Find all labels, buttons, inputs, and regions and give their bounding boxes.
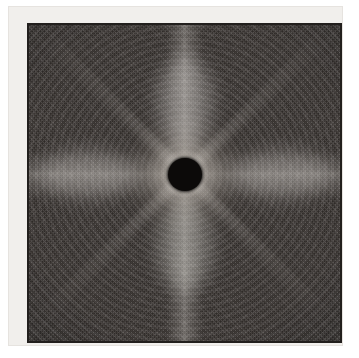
halo-lobe-right [235,148,330,200]
halo-lobe-top [157,56,213,146]
halo-lobe-bottom [157,202,213,292]
plate-border [27,23,342,343]
plate-frame [8,6,343,346]
halo-lobe-left [40,148,135,200]
image-description: Grayscale X-ray / electron diffraction p… [0,0,1,1]
diffraction-pattern-image [29,25,340,341]
beamstop-disc [168,158,202,191]
figure-root: Grayscale X-ray / electron diffraction p… [0,0,359,358]
